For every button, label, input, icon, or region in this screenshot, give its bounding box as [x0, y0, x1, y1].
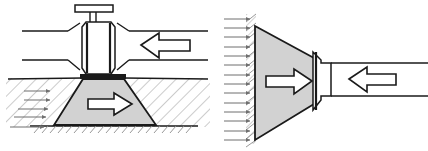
ground-surface-line-left	[8, 78, 83, 79]
thrust-block-diagram	[0, 0, 428, 151]
diagram-canvas	[0, 0, 428, 151]
handwheel	[75, 5, 113, 12]
ground-surface-line-right	[124, 78, 208, 79]
